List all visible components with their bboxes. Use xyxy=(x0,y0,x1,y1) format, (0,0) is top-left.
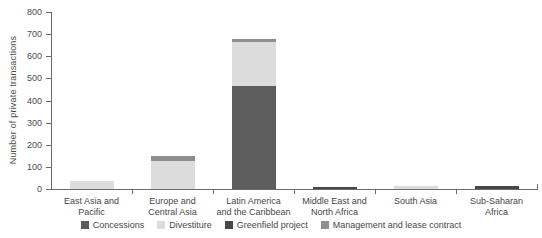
y-axis-tick xyxy=(46,56,51,57)
bar-segment-divestiture xyxy=(394,186,438,189)
legend-item: Divestiture xyxy=(157,220,212,230)
legend-label: Divestiture xyxy=(169,220,212,230)
y-axis-tick-label: 800 xyxy=(0,7,42,17)
legend-swatch-icon xyxy=(81,221,89,229)
y-axis-tick xyxy=(46,101,51,102)
y-axis-line xyxy=(51,12,52,190)
legend-swatch-icon xyxy=(321,221,329,229)
x-axis-tick xyxy=(456,190,457,194)
bar-segment-greenfield-project xyxy=(475,186,519,189)
bar-segment-concessions xyxy=(232,86,276,189)
y-axis-tick xyxy=(46,189,51,190)
x-axis-tick xyxy=(213,190,214,194)
x-axis-tick xyxy=(132,190,133,194)
legend-swatch-icon xyxy=(225,221,233,229)
legend-label: Concessions xyxy=(93,220,145,230)
y-axis-tick xyxy=(46,123,51,124)
legend-label: Greenfield project xyxy=(237,220,308,230)
y-axis-tick-label: 400 xyxy=(0,96,42,106)
y-axis-tick-label: 200 xyxy=(0,140,42,150)
x-axis-category-label: Europe andCentral Asia xyxy=(126,196,219,217)
x-axis-category-label: East Asia andPacific xyxy=(45,196,138,217)
y-axis-tick xyxy=(46,145,51,146)
legend-swatch-icon xyxy=(157,221,165,229)
y-axis-tick xyxy=(46,34,51,35)
y-axis-tick xyxy=(46,167,51,168)
legend-item: Management and lease contract xyxy=(321,220,462,230)
bar-segment-divestiture xyxy=(70,181,114,189)
y-axis-tick-label: 500 xyxy=(0,73,42,83)
legend-item: Greenfield project xyxy=(225,220,308,230)
bar-segment-management-and-lease-contract xyxy=(232,39,276,42)
x-axis-tick xyxy=(375,190,376,194)
bar-segment-greenfield-project xyxy=(313,187,357,189)
y-axis-tick xyxy=(46,12,51,13)
x-axis-tick xyxy=(294,190,295,194)
bar-segment-divestiture xyxy=(232,42,276,86)
y-axis-tick-label: 0 xyxy=(0,184,42,194)
legend-item: Concessions xyxy=(81,220,145,230)
bar-segment-management-and-lease-contract xyxy=(151,156,195,160)
x-axis-category-label: Middle East andNorth Africa xyxy=(288,196,381,217)
y-axis-tick-label: 300 xyxy=(0,118,42,128)
x-axis-category-label: Latin Americaand the Caribbean xyxy=(207,196,300,217)
x-axis-category-label: South Asia xyxy=(369,196,462,207)
legend-label: Management and lease contract xyxy=(333,220,462,230)
y-axis-tick-label: 700 xyxy=(0,29,42,39)
y-axis-tick xyxy=(46,78,51,79)
bar-segment-divestiture xyxy=(151,161,195,189)
legend: ConcessionsDivestitureGreenfield project… xyxy=(0,218,542,232)
x-axis-category-label: Sub-SaharanAfrica xyxy=(450,196,542,217)
stacked-bar-chart: Number of private transactions 010020030… xyxy=(0,0,542,238)
x-axis-end-tick xyxy=(537,184,538,189)
y-axis-tick-label: 100 xyxy=(0,162,42,172)
y-axis-tick-label: 600 xyxy=(0,51,42,61)
